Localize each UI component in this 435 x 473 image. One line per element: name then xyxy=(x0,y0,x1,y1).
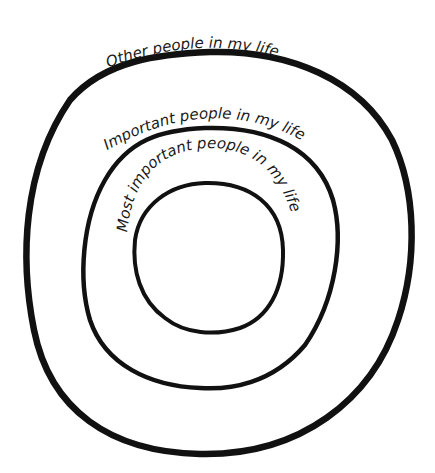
middle-ring xyxy=(83,128,337,388)
circles-of-closeness-diagram: Other people in my life Important people… xyxy=(0,0,435,473)
diagram-svg: Other people in my life Important people… xyxy=(0,0,435,473)
inner-ring xyxy=(134,183,283,333)
